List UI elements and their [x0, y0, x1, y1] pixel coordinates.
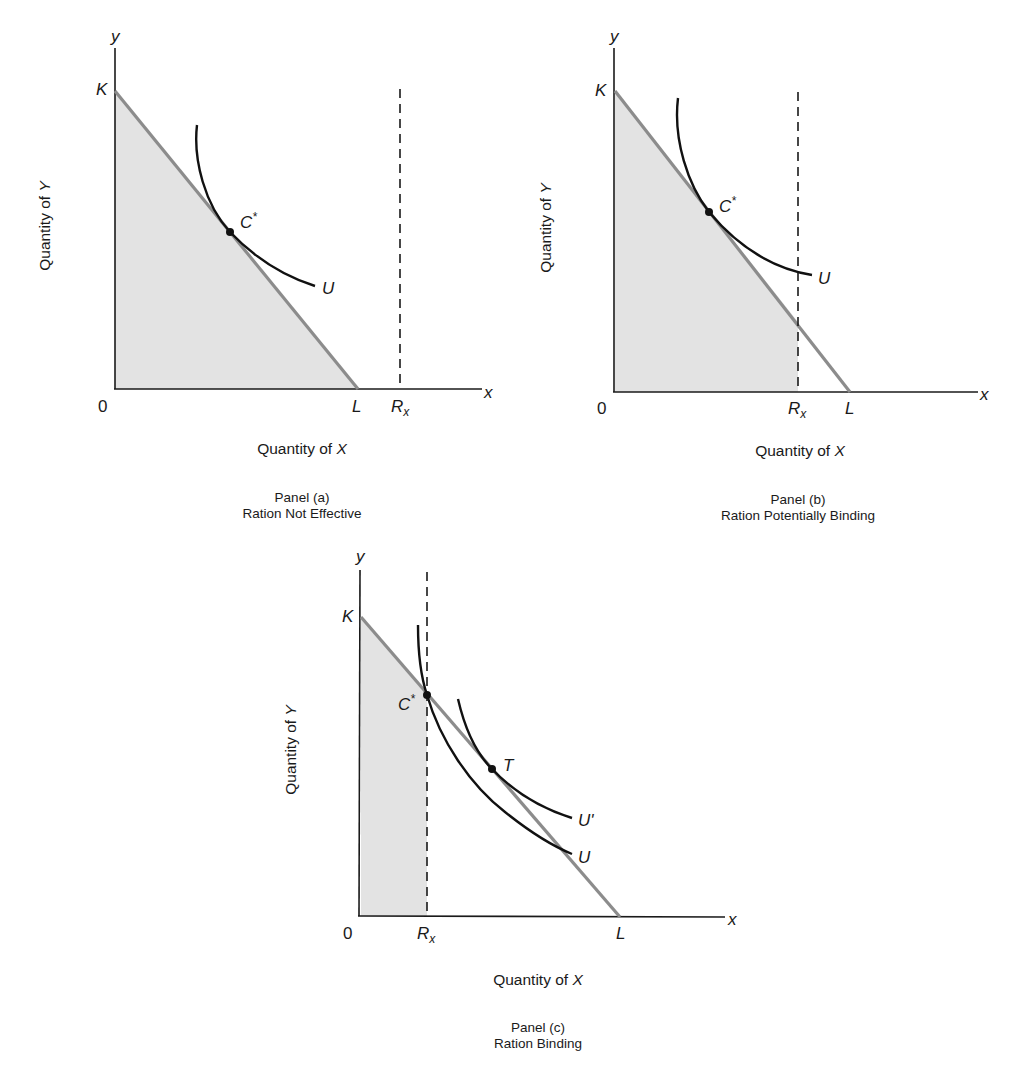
panel-b-subtitle: Ration Potentially Binding — [721, 508, 875, 523]
panel-a: y x 0 K L Rx C* U Quantity of Y Quantity… — [36, 27, 493, 521]
point-c-star — [705, 208, 713, 216]
label-k: K — [342, 607, 354, 626]
label-rx: Rx — [788, 399, 807, 421]
label-l: L — [845, 399, 854, 418]
point-t — [488, 765, 496, 773]
y-axis-letter: y — [355, 547, 366, 566]
origin-label: 0 — [597, 399, 606, 418]
x-axis-letter: x — [483, 383, 493, 402]
x-axis-title: Quantity of X — [257, 440, 347, 457]
label-u: U — [322, 279, 335, 298]
indifference-curve-u-prime — [458, 699, 572, 818]
point-c-star — [226, 228, 234, 236]
y-axis-title: Quantity of Y — [282, 704, 299, 795]
y-axis-letter: y — [609, 27, 620, 46]
panel-a-title: Panel (a) — [275, 490, 330, 505]
indifference-curve-u — [418, 625, 572, 854]
origin-label: 0 — [98, 397, 107, 416]
x-axis-title: Quantity of X — [493, 971, 583, 988]
label-rx: Rx — [417, 924, 436, 946]
panel-c-subtitle: Ration Binding — [494, 1036, 582, 1051]
x-axis-title: Quantity of X — [755, 442, 845, 459]
label-t: T — [503, 756, 515, 775]
y-axis-title: Quantity of Y — [537, 182, 554, 273]
panel-a-subtitle: Ration Not Effective — [242, 506, 361, 521]
rationing-figure: y x 0 K L Rx C* U Quantity of Y Quantity… — [0, 0, 1015, 1080]
panel-c-title: Panel (c) — [511, 1020, 565, 1035]
y-axis — [359, 570, 360, 916]
label-c-star: C* — [719, 194, 736, 216]
x-axis-letter: x — [727, 910, 737, 929]
label-k: K — [595, 81, 607, 100]
panel-b-title: Panel (b) — [771, 492, 826, 507]
x-axis-letter: x — [979, 385, 989, 404]
label-rx: Rx — [391, 397, 410, 419]
feasible-region — [615, 91, 798, 392]
x-axis — [358, 916, 725, 917]
origin-label: 0 — [343, 924, 352, 943]
panel-c: y x 0 K L Rx C* T U' U Quantity of Y Qua… — [282, 547, 737, 1051]
label-k: K — [96, 80, 108, 99]
panel-b: y x 0 K L Rx C* U Quantity of Y Quantity… — [537, 27, 989, 523]
label-c-star: C* — [240, 210, 257, 232]
label-u: U — [578, 848, 591, 867]
y-axis-title: Quantity of Y — [36, 180, 53, 271]
label-u-prime: U' — [578, 811, 594, 830]
label-l: L — [616, 924, 625, 943]
feasible-region — [361, 617, 427, 916]
label-u: U — [818, 269, 831, 288]
label-l: L — [352, 397, 361, 416]
point-c-star — [423, 691, 431, 699]
y-axis-letter: y — [110, 27, 121, 46]
